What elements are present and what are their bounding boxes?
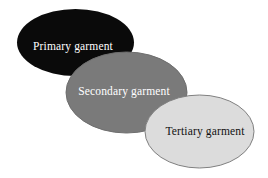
stage-tertiary[interactable]: Tertiary garment [145,95,254,168]
primary-ellipse-label: Primary garment [33,40,114,53]
diagram-svg-canvas: Primary garment Secondary garment Tertia… [0,0,268,178]
tertiary-ellipse-label: Tertiary garment [165,125,245,138]
secondary-ellipse-label: Secondary garment [78,85,170,98]
garment-layering-diagram: Primary garment Secondary garment Tertia… [0,0,268,178]
